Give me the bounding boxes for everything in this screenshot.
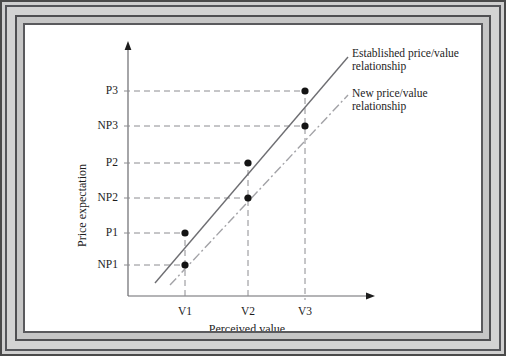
legend-item-established: Established price/value relationship [352,47,477,73]
data-point-np2 [244,194,251,201]
legend-item-established-line2: relationship [352,60,477,73]
y-tick-label-np2: NP2 [65,192,118,204]
y-tick-label-p3: P3 [65,85,118,97]
chart-canvas: P3 NP3 P2 NP2 P1 NP1 V1 V2 V3 Perceived … [25,25,481,331]
y-tick-label-p1: P1 [65,227,118,239]
y-axis-arrowhead [125,41,132,50]
figure-screenshot: P3 NP3 P2 NP2 P1 NP1 V1 V2 V3 Perceived … [0,0,506,356]
y-axis-title: Price expectation [75,164,90,247]
legend-item-new-line2: relationship [352,100,477,113]
data-point-p3 [301,87,308,94]
x-tick-label-v3: V3 [298,306,312,318]
legend-item-new: New price/value relationship [352,87,477,113]
data-point-p2 [244,159,251,166]
series-line-established [155,57,348,283]
x-axis-arrowhead [366,293,375,300]
series-line-new [170,95,348,285]
y-tick-label-np1: NP1 [65,259,118,271]
data-point-np1 [181,261,188,268]
x-tick-label-v2: V2 [241,306,255,318]
x-tick-label-v1: V1 [178,306,192,318]
legend-item-new-line1: New price/value [352,87,477,100]
x-axis-title: Perceived value [209,322,285,331]
data-point-np3 [301,122,308,129]
y-tick-label-p2: P2 [65,157,118,169]
y-tick-label-np3: NP3 [65,120,118,132]
legend-item-established-line1: Established price/value [352,47,477,60]
data-point-p1 [181,229,188,236]
